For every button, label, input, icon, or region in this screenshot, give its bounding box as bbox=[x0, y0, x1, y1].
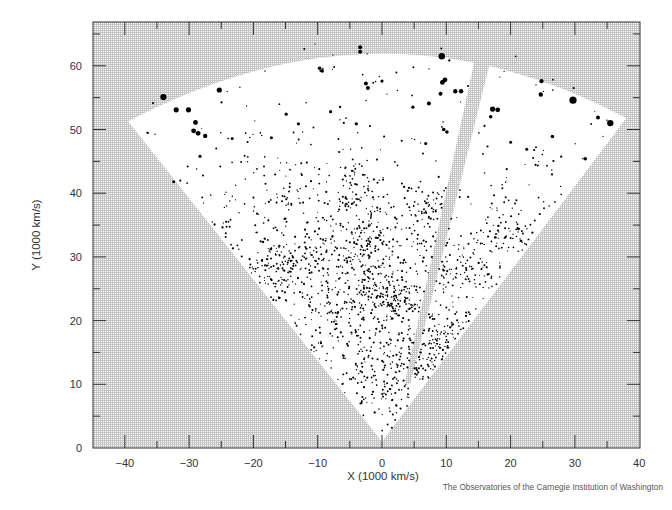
galaxy-point bbox=[293, 263, 295, 265]
galaxy-point bbox=[369, 337, 371, 339]
galaxy-point bbox=[363, 288, 365, 290]
galaxy-point bbox=[348, 287, 350, 289]
galaxy-point bbox=[397, 339, 399, 341]
galaxy-point bbox=[468, 320, 470, 322]
galaxy-point bbox=[305, 236, 307, 238]
galaxy-point bbox=[238, 248, 240, 250]
galaxy-point bbox=[343, 291, 345, 293]
galaxy-point bbox=[367, 238, 369, 240]
galaxy-point bbox=[392, 361, 394, 363]
galaxy-point bbox=[356, 369, 358, 371]
galaxy-point bbox=[357, 382, 359, 384]
galaxy-point bbox=[373, 285, 374, 286]
galaxy-point bbox=[480, 242, 482, 244]
galaxy-point bbox=[361, 362, 363, 364]
galaxy-point bbox=[271, 279, 273, 281]
galaxy-point bbox=[383, 304, 385, 306]
galaxy-point bbox=[459, 196, 461, 198]
galaxy-point bbox=[368, 290, 370, 292]
galaxy-point bbox=[405, 262, 407, 264]
galaxy-point bbox=[442, 356, 444, 358]
galaxy-point bbox=[344, 358, 346, 360]
galaxy-point bbox=[404, 197, 406, 199]
galaxy-point bbox=[349, 241, 351, 243]
galaxy-point bbox=[363, 253, 365, 255]
galaxy-point bbox=[308, 272, 310, 274]
galaxy-point bbox=[484, 172, 486, 174]
galaxy-point bbox=[359, 302, 361, 304]
galaxy-point bbox=[522, 242, 523, 243]
galaxy-point bbox=[431, 343, 433, 345]
galaxy-point bbox=[326, 220, 328, 222]
galaxy-point bbox=[370, 217, 372, 219]
galaxy-point bbox=[314, 230, 316, 232]
galaxy-point bbox=[445, 352, 447, 354]
galaxy-point bbox=[283, 187, 285, 189]
galaxy-point bbox=[470, 203, 471, 204]
galaxy-point bbox=[319, 332, 321, 334]
galaxy-point bbox=[315, 246, 316, 247]
galaxy-point bbox=[435, 345, 436, 346]
galaxy-point bbox=[326, 163, 327, 164]
galaxy-point bbox=[435, 338, 437, 340]
galaxy-point bbox=[438, 346, 439, 347]
galaxy-point bbox=[247, 161, 248, 162]
galaxy-point bbox=[338, 198, 340, 200]
galaxy-point bbox=[381, 393, 383, 395]
galaxy-point bbox=[412, 310, 414, 312]
galaxy-point bbox=[253, 206, 255, 208]
galaxy-point bbox=[290, 271, 292, 273]
galaxy-point bbox=[379, 180, 380, 181]
galaxy-point bbox=[460, 329, 462, 331]
galaxy-point bbox=[301, 281, 303, 283]
galaxy-point bbox=[351, 308, 353, 310]
galaxy-point bbox=[179, 180, 181, 182]
galaxy-point bbox=[335, 287, 336, 288]
galaxy-point bbox=[380, 149, 381, 150]
galaxy-point bbox=[525, 148, 528, 151]
galaxy-point bbox=[385, 275, 387, 277]
galaxy-point bbox=[481, 261, 483, 263]
galaxy-point bbox=[390, 350, 391, 351]
galaxy-point bbox=[325, 280, 327, 282]
galaxy-point bbox=[335, 312, 337, 314]
galaxy-point bbox=[440, 80, 445, 85]
galaxy-point bbox=[429, 316, 431, 318]
galaxy-point bbox=[368, 281, 370, 283]
galaxy-point bbox=[443, 284, 444, 285]
galaxy-point bbox=[235, 185, 236, 186]
galaxy-point bbox=[411, 246, 412, 247]
galaxy-point bbox=[456, 319, 458, 321]
galaxy-point bbox=[458, 325, 460, 327]
galaxy-point bbox=[428, 206, 429, 207]
galaxy-point bbox=[348, 341, 350, 343]
x-tick-label: −40 bbox=[115, 457, 134, 469]
galaxy-point bbox=[238, 212, 239, 213]
galaxy-point bbox=[379, 230, 381, 232]
galaxy-point bbox=[365, 397, 366, 398]
galaxy-point bbox=[411, 138, 412, 139]
galaxy-point bbox=[302, 131, 303, 132]
galaxy-point bbox=[365, 250, 366, 251]
galaxy-point bbox=[408, 325, 410, 327]
galaxy-point bbox=[353, 165, 355, 167]
galaxy-point bbox=[287, 203, 289, 205]
galaxy-point bbox=[396, 412, 398, 414]
galaxy-point bbox=[367, 177, 369, 179]
galaxy-point bbox=[507, 250, 508, 251]
galaxy-point bbox=[314, 266, 316, 268]
galaxy-point bbox=[278, 254, 279, 255]
galaxy-point bbox=[363, 398, 365, 400]
galaxy-point bbox=[358, 285, 359, 286]
galaxy-point bbox=[360, 290, 362, 292]
galaxy-point bbox=[515, 56, 517, 58]
galaxy-point bbox=[378, 234, 380, 236]
galaxy-point bbox=[302, 296, 304, 298]
galaxy-point bbox=[174, 107, 179, 112]
galaxy-point bbox=[346, 302, 348, 304]
galaxy-point bbox=[340, 247, 342, 249]
galaxy-point bbox=[365, 274, 366, 275]
galaxy-point bbox=[386, 227, 388, 229]
galaxy-point bbox=[403, 363, 405, 365]
galaxy-point bbox=[326, 296, 328, 298]
